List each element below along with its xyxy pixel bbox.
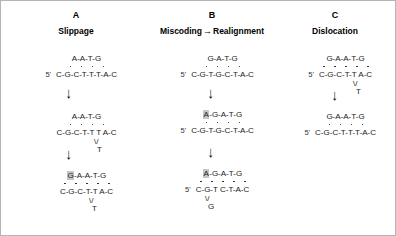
five-prime-spacer: 5' [182,169,198,178]
panel-b-title-left: Miscoding [160,26,202,36]
bottom-strand-sequence: C-G-C-T-T-T-A-C [56,70,117,79]
pair-dot [70,66,72,68]
transition-arrow-b1: ↓ [208,85,214,100]
top-strand-row: 5' A-G-A-T-G [151,168,273,179]
bulge-base: T [92,204,97,213]
panel-a-slippage: A Slippage 5' A-A-T-G 5' C-G-C-T-T-T-A-C [1,1,151,236]
bulge-base: T [356,87,361,96]
transition-arrow-b2: ↓ [208,144,214,159]
pair-dot [323,66,325,68]
pair-dot [108,183,110,185]
panel-c-title: Dislocation [273,26,396,36]
pair-dot [244,181,246,183]
pair-dot [81,124,83,126]
bulge-base: T [97,145,102,154]
panel-a-step-3: 5' G-A-A-T-G C-G-C-T-T A-C \/ [1,170,151,213]
five-prime-spacer: 5' [186,54,202,63]
transition-arrow-c1: ↓ [332,87,338,102]
panel-a-step-2: 5' A-A-T-G C-G-C-T-T T A-C \/ T [1,111,151,154]
five-prime-label: 5' [170,126,186,135]
dna-replication-error-figure: A Slippage 5' A-A-T-G 5' C-G-C-T-T-T-A-C [0,0,396,236]
bottom-strand-row: 5' C-G-C-T-T-T-A-C [273,127,396,138]
bulge-connector-icon: \/ [89,197,93,204]
bulge-connector-icon: \/ [353,80,357,87]
pair-dot [97,183,99,185]
right-arrow-icon: → [202,26,213,36]
bottom-strand-sequence: C-G-T C-T-A-C [196,185,250,194]
pair-dot [345,66,347,68]
five-prime-label: 5' [298,70,314,79]
pair-dot [233,181,235,183]
bottom-strand-sequence: C-G-T-G-C-T-A-C [191,126,254,135]
panel-c-step-2: 5' G-A-A-T-G 5' C-G-C-T-T-T-A-C [273,111,396,138]
pair-dot [367,66,369,68]
pair-dot [103,124,105,126]
five-prime-label: 5' [35,70,51,79]
bottom-strand-sequence: C-G-T-G-C-T-A-C [191,70,254,79]
top-strand-row: 5' G-A-A-T-G [273,111,396,122]
five-prime-spacer: 5' [51,112,67,121]
five-prime-spacer: 5' [46,171,62,180]
bottom-strand-row: 5' C-G-T-G-C-T-A-C [151,69,273,80]
pair-dot [70,124,72,126]
top-strand-row: 5' G-A-A-T-G [273,53,396,64]
pair-dot [86,183,88,185]
five-prime-label: 5' [175,185,191,194]
pair-dot [103,66,105,68]
bulge-base: G [208,202,214,211]
bottom-strand-sequence: C-G-C-T-T A-C [319,70,372,79]
five-prime-label: 5' [170,70,186,79]
pair-dot [92,66,94,68]
pair-dot [239,66,241,68]
panel-b-step-3: 5' A-G-A-T-G 5' C-G-T C-T-A-C \/ [151,168,273,211]
panel-b-title: Miscoding→Realignment [151,26,273,36]
bottom-strand-row: 5' C-G-T C-T-A-C [151,184,273,195]
bottom-strand-row: 5' C-G-T-G-C-T-A-C [151,125,273,136]
pair-dot [217,122,219,124]
top-strand-row: 5' G-A-A-T-G [1,170,151,181]
top-strand-sequence: A-G-A-T-G [203,110,242,119]
panel-a-step-1: 5' A-A-T-G 5' C-G-C-T-T-T-A-C [1,53,151,80]
pair-dot [81,66,83,68]
top-strand-row: 5' A-G-A-T-G [151,109,273,120]
transition-arrow-a1: ↓ [66,85,72,100]
top-strand-sequence: G-A-T-G [207,54,237,63]
top-strand-row: 5' G-A-T-G [151,53,273,64]
bottom-strand-sequence: C-G-C-T-T T A-C [57,128,117,137]
extrahelical-base-group: \/ T [1,138,151,154]
pair-dot [356,66,358,68]
pair-dot [362,124,364,126]
five-prime-spacer: 5' [51,54,67,63]
extrahelical-base-group: \/ T [1,197,151,213]
bulge-connector-icon: \/ [205,195,209,202]
bottom-strand-sequence: C-G-C-T-T-T-A-C [315,128,376,137]
five-prime-label: 5' [294,128,310,137]
panel-a-letter: A [1,10,151,20]
pair-dot [228,122,230,124]
top-strand-rest: -G-A-T-G [209,169,242,178]
pair-dot [75,183,77,185]
panel-b-step-1: 5' G-A-T-G 5' C-G-T-G-C-T-A-C [151,53,273,80]
top-strand-sequence: A-G-A-T-G [203,169,242,178]
pair-dot [228,66,230,68]
panel-b-miscoding-realignment: B Miscoding→Realignment 5' G-A-T-G 5' C-… [151,1,273,236]
five-prime-spacer: 5' [182,110,198,119]
top-strand-rest: -G-A-T-G [209,110,242,119]
bottom-strand-row: 5' C-G-C-T-T-T-A-C [1,69,151,80]
bottom-strand-sequence: C-G-C-T-T A-C [60,187,113,196]
top-strand-rest: -A-A-T-G [74,171,106,180]
transition-arrow-a2: ↓ [66,146,72,161]
pair-dot [340,124,342,126]
panel-b-letter: B [151,10,273,20]
pair-dot [351,124,353,126]
pair-dot [92,124,94,126]
top-strand-sequence: A-A-T-G [72,54,101,63]
five-prime-spacer: 5' [305,54,321,63]
bulge-connector-icon: \/ [94,138,98,145]
top-strand-sequence: A-A-T-G [72,112,101,121]
pair-dot [239,122,241,124]
bottom-strand-row: C-G-C-T-T A-C [1,186,151,197]
pair-dot [217,66,219,68]
pair-dot [222,181,224,183]
top-strand-sequence: G-A-A-T-G [67,171,106,180]
